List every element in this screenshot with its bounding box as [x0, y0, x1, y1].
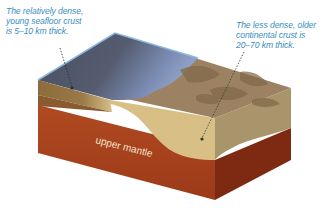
continental-pointer-dot: [200, 137, 203, 140]
crust-block-diagram: upper mantle: [0, 0, 324, 208]
oceanic-pointer-dot: [70, 86, 73, 89]
